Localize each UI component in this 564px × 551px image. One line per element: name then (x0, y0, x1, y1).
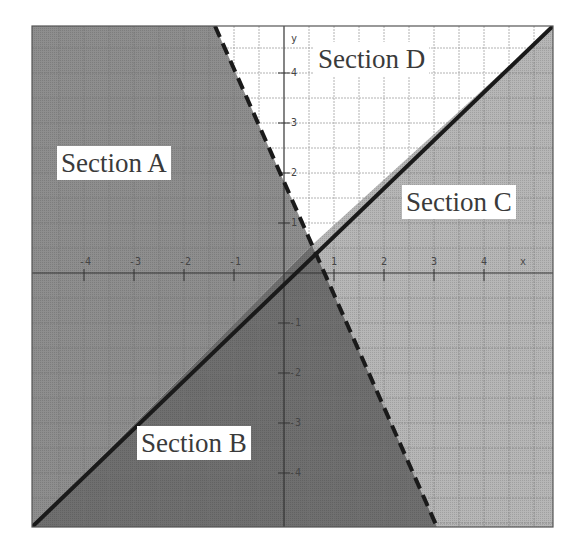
x-tick-label: 2 (381, 257, 387, 267)
x-tick-label: -1 (229, 257, 241, 267)
x-tick-label: 3 (431, 257, 437, 267)
y-tick-label: 2 (291, 168, 297, 178)
x-tick-label: 1 (331, 257, 337, 267)
y-tick-label: 1 (291, 218, 297, 228)
x-tick-label: -3 (129, 257, 141, 267)
y-tick-label: -1 (289, 318, 301, 328)
x-tick-label: 4 (481, 257, 487, 267)
y-tick-label: 3 (291, 118, 297, 128)
section-d-label: Section D (314, 42, 429, 76)
y-tick-label: -4 (289, 468, 301, 478)
x-tick-label: -2 (179, 257, 191, 267)
y-tick-label: -3 (289, 418, 301, 428)
inequality-graph (0, 0, 564, 551)
x-tick-label: -4 (79, 257, 91, 267)
y-axis-label: y (291, 34, 297, 44)
section-c-label: Section C (402, 185, 516, 219)
y-tick-label: -2 (289, 368, 301, 378)
x-axis-label: x (520, 257, 526, 267)
section-a-label: Section A (57, 146, 171, 180)
y-tick-label: 4 (291, 68, 297, 78)
section-b-label: Section B (137, 426, 251, 460)
